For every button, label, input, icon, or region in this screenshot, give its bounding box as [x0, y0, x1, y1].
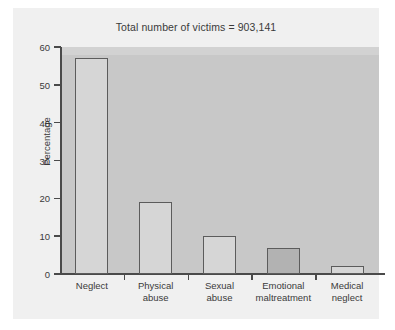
bar-physical-abuse — [139, 202, 172, 274]
y-tick-label-10: 10 — [22, 231, 50, 242]
plot-top-band — [60, 47, 379, 55]
y-tick-30 — [54, 160, 61, 162]
y-tick-label-60: 60 — [22, 42, 50, 53]
bar-medical-neglect — [331, 266, 364, 274]
y-tick-label-50: 50 — [22, 80, 50, 91]
chart-figure: Total number of victims = 903,141 Percen… — [0, 0, 395, 330]
y-tick-label-20: 20 — [22, 193, 50, 204]
y-tick-label-30: 30 — [22, 156, 50, 167]
x-label-medical-neglect: Medical neglect — [307, 280, 387, 303]
y-tick-10 — [54, 235, 61, 237]
y-tick-0 — [54, 273, 61, 275]
chart-title: Total number of victims = 903,141 — [13, 21, 379, 33]
bar-emotional-maltreatment — [267, 248, 300, 274]
y-tick-20 — [54, 198, 61, 200]
y-tick-label-0: 0 — [22, 269, 50, 280]
x-label-medical-neglect-line2: neglect — [307, 292, 387, 304]
bar-neglect — [75, 58, 108, 274]
chart-card: Total number of victims = 903,141 Percen… — [13, 8, 379, 319]
y-tick-label-40: 40 — [22, 118, 50, 129]
x-label-medical-neglect-line1: Medical — [307, 280, 387, 292]
y-axis-label: Percentage — [41, 87, 52, 197]
y-tick-60 — [54, 46, 61, 48]
y-tick-40 — [54, 122, 61, 124]
y-tick-50 — [54, 84, 61, 86]
bar-sexual-abuse — [203, 236, 236, 274]
